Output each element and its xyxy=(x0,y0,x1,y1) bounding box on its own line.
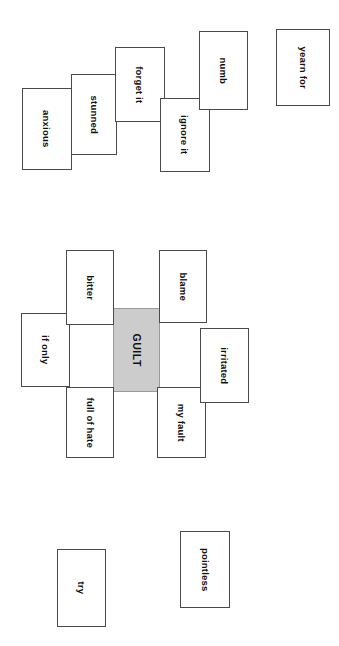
card-try[interactable]: try xyxy=(57,549,106,627)
card-label-pointless: pointless xyxy=(200,548,210,592)
card-label-bitter: bitter xyxy=(85,275,95,300)
card-label-irritated: irritated xyxy=(220,347,230,384)
card-numb[interactable]: numb xyxy=(199,31,248,110)
card-blame[interactable]: blame xyxy=(159,250,207,323)
card-guilt[interactable]: GUILT xyxy=(113,308,160,392)
card-forget-it[interactable]: forget it xyxy=(115,47,165,122)
card-label-forget-it: forget it xyxy=(135,66,145,103)
card-label-guilt: GUILT xyxy=(131,333,142,367)
card-full-of-hate[interactable]: full of hate xyxy=(66,387,114,458)
card-pointless[interactable]: pointless xyxy=(180,531,230,608)
card-stunned[interactable]: stunned xyxy=(71,74,117,155)
card-label-ignore-it: ignore it xyxy=(180,115,190,154)
card-label-my-fault: my fault xyxy=(177,403,187,441)
card-irritated[interactable]: irritated xyxy=(200,328,249,403)
card-label-anxious: anxious xyxy=(42,110,52,147)
diagram-canvas: anxiousstunnedforget itignore itnumbyear… xyxy=(0,0,339,646)
card-label-yearn-for: yearn for xyxy=(298,46,308,88)
card-if-only[interactable]: if only xyxy=(21,313,70,387)
card-anxious[interactable]: anxious xyxy=(22,88,72,170)
card-label-full-of-hate: full of hate xyxy=(85,397,95,447)
card-my-fault[interactable]: my fault xyxy=(157,387,206,458)
card-bitter[interactable]: bitter xyxy=(66,250,114,325)
card-yearn-for[interactable]: yearn for xyxy=(276,29,330,106)
card-label-numb: numb xyxy=(219,57,229,84)
card-label-if-only: if only xyxy=(41,335,51,364)
card-label-try: try xyxy=(77,582,87,595)
card-label-stunned: stunned xyxy=(89,95,99,133)
card-label-blame: blame xyxy=(178,272,188,300)
